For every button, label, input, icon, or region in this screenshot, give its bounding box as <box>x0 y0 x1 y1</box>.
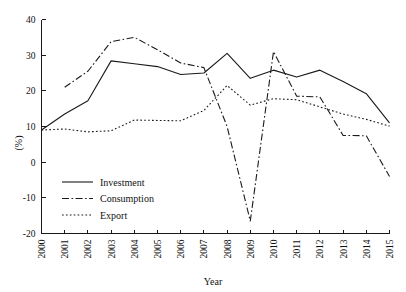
data-series-group <box>42 37 390 221</box>
x-tick-label: 2001 <box>60 239 70 258</box>
x-axis-tick-marks <box>42 230 390 234</box>
x-axis-tick-labels: 2000200120022003200420052006200720082009… <box>37 239 395 258</box>
x-tick-label: 2008 <box>223 239 233 258</box>
x-tick-label: 2012 <box>315 239 325 258</box>
series-line-investment <box>42 53 390 130</box>
y-tick-label: 20 <box>26 86 36 96</box>
legend-label-consumption: Consumption <box>100 193 154 204</box>
y-axis-tick-marks <box>42 20 46 234</box>
x-tick-label: 2014 <box>362 239 372 258</box>
x-tick-label: 2010 <box>269 239 279 258</box>
plot-axes <box>42 20 390 234</box>
x-axis-title: Year <box>204 276 223 287</box>
line-chart: -20-10010203040 200020012002200320042005… <box>0 0 406 292</box>
y-tick-label: 10 <box>26 122 36 132</box>
x-tick-label: 2011 <box>292 239 302 258</box>
chart-container: -20-10010203040 200020012002200320042005… <box>0 0 406 292</box>
x-tick-label: 2013 <box>339 239 349 258</box>
x-tick-label: 2000 <box>37 239 47 258</box>
y-tick-label: 40 <box>26 15 36 25</box>
x-tick-label: 2003 <box>107 239 117 258</box>
x-tick-label: 2002 <box>83 239 93 258</box>
x-tick-label: 2006 <box>176 239 186 258</box>
y-tick-label: -20 <box>23 229 36 239</box>
legend-label-export: Export <box>100 210 127 221</box>
x-tick-label: 2005 <box>153 239 163 258</box>
y-tick-label: 0 <box>31 158 36 168</box>
x-tick-label: 2015 <box>385 239 395 258</box>
chart-legend: InvestmentConsumptionExport <box>62 177 154 221</box>
y-axis-tick-labels: -20-10010203040 <box>23 15 36 239</box>
x-tick-label: 2004 <box>130 239 140 258</box>
y-tick-label: -10 <box>23 193 36 203</box>
legend-label-investment: Investment <box>100 177 145 188</box>
y-axis-title: (%) <box>13 136 25 151</box>
y-tick-label: 30 <box>26 51 36 61</box>
x-tick-label: 2007 <box>199 239 209 258</box>
x-tick-label: 2009 <box>246 239 256 258</box>
